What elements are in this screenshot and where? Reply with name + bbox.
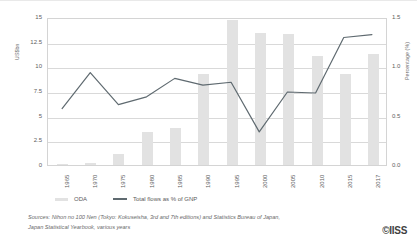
left-tick-7.5: 7.5 xyxy=(16,88,42,94)
sources-line-2: Japan Statistical Yearbook, various year… xyxy=(28,223,318,233)
x-tick-1970: 1970 xyxy=(92,175,98,188)
legend-label: ODA xyxy=(74,196,87,202)
right-tick-0.5: 0.5 xyxy=(392,113,417,119)
x-tick-1985: 1985 xyxy=(177,175,183,188)
x-tick-2000: 2000 xyxy=(262,175,268,188)
x-tick-1980: 1980 xyxy=(149,175,155,188)
right-tick-1.0: 1.0 xyxy=(392,63,417,69)
sources-note: Sources: Nihon no 100 Nen (Tokyo: Kokuse… xyxy=(28,213,318,233)
x-tick-1965: 1965 xyxy=(64,175,70,188)
x-tick-2017: 2017 xyxy=(375,175,381,188)
legend-item-total-flows: Total flows as % of GNP xyxy=(113,196,197,202)
iiss-logo: ©IISS xyxy=(382,225,407,236)
legend-line-swatch-icon xyxy=(113,198,127,200)
right-tick-1.5: 1.5 xyxy=(392,14,417,20)
left-tick-2.5: 2.5 xyxy=(16,137,42,143)
chart-legend: ODATotal flows as % of GNP xyxy=(55,196,223,202)
legend-label: Total flows as % of GNP xyxy=(133,196,197,202)
x-tick-1990: 1990 xyxy=(205,175,211,188)
legend-item-oda: ODA xyxy=(55,196,87,202)
line-series-total-flows xyxy=(48,19,386,165)
x-tick-2010: 2010 xyxy=(319,175,325,188)
right-tick-0.0: 0.0 xyxy=(392,162,417,168)
x-tick-2005: 2005 xyxy=(290,175,296,188)
sources-line-1: Sources: Nihon no 100 Nen (Tokyo: Kokuse… xyxy=(28,213,318,223)
x-tick-2015: 2015 xyxy=(347,175,353,188)
left-axis-title: US$bn xyxy=(14,43,20,60)
x-tick-1975: 1975 xyxy=(120,175,126,188)
left-tick-15: 15 xyxy=(16,14,42,20)
chart-figure: US$bn Percentage (%) 02.557.51012.515 0.… xyxy=(0,0,417,245)
left-tick-10: 10 xyxy=(16,63,42,69)
left-tick-5: 5 xyxy=(16,113,42,119)
x-tick-1995: 1995 xyxy=(234,175,240,188)
plot-area xyxy=(47,18,387,166)
left-tick-0: 0 xyxy=(16,162,42,168)
left-tick-12.5: 12.5 xyxy=(16,39,42,45)
right-axis-title: Percentage (%) xyxy=(404,42,410,80)
line-path xyxy=(62,35,372,132)
legend-bar-swatch-icon xyxy=(55,198,68,201)
